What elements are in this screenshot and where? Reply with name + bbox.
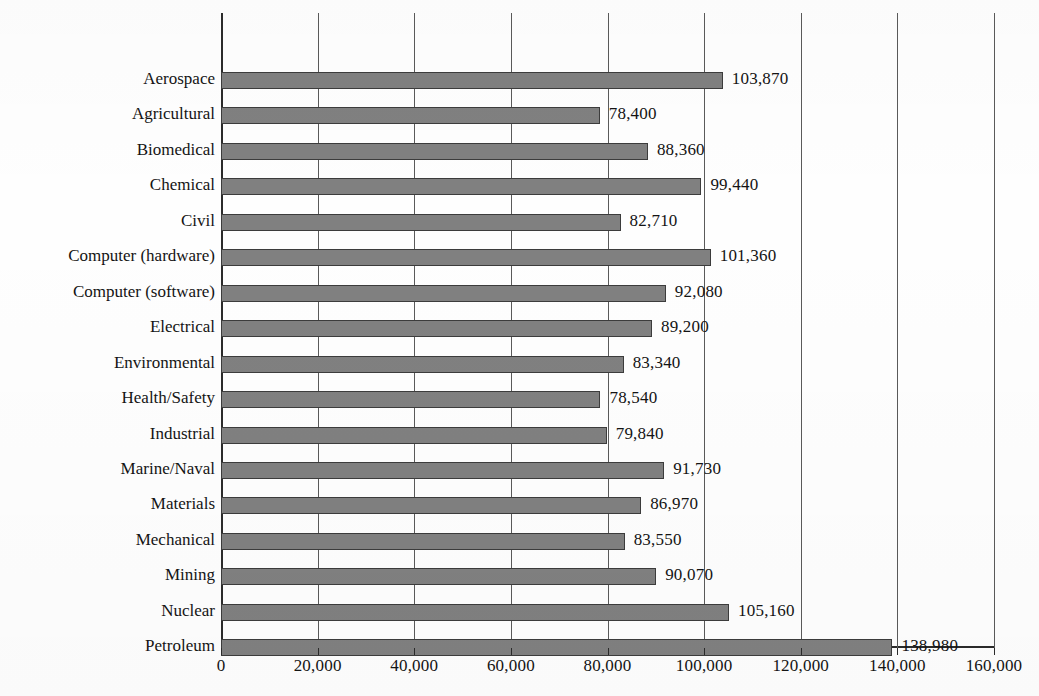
plot-area: Aerospace103,870Agricultural78,400Biomed… bbox=[221, 13, 994, 648]
bar bbox=[221, 178, 701, 195]
bar-row: Environmental83,340 bbox=[221, 350, 994, 385]
bar bbox=[221, 214, 621, 231]
bar-value-label: 91,730 bbox=[673, 459, 721, 479]
category-label: Civil bbox=[0, 211, 215, 231]
bar-row: Health/Safety78,540 bbox=[221, 385, 994, 420]
bar bbox=[221, 427, 607, 444]
bar-row: Agricultural78,400 bbox=[221, 101, 994, 136]
category-label: Chemical bbox=[0, 175, 215, 195]
category-label: Mechanical bbox=[0, 530, 215, 550]
bar bbox=[221, 462, 664, 479]
bar bbox=[221, 72, 723, 89]
tick-mark bbox=[414, 648, 415, 655]
category-label: Biomedical bbox=[0, 140, 215, 160]
bar-row: Mechanical83,550 bbox=[221, 527, 994, 562]
tick-mark bbox=[221, 648, 222, 655]
bar-row: Industrial79,840 bbox=[221, 421, 994, 456]
bar bbox=[221, 568, 656, 585]
category-label: Mining bbox=[0, 565, 215, 585]
category-label: Computer (software) bbox=[0, 282, 215, 302]
bar-value-label: 86,970 bbox=[650, 494, 698, 514]
tick-mark bbox=[608, 648, 609, 655]
category-label: Petroleum bbox=[0, 636, 215, 656]
bar-value-label: 83,340 bbox=[633, 353, 681, 373]
bar-value-label: 88,360 bbox=[657, 140, 705, 160]
bar-row: Materials86,970 bbox=[221, 491, 994, 526]
category-label: Industrial bbox=[0, 424, 215, 444]
category-label: Materials bbox=[0, 494, 215, 514]
bar-value-label: 103,870 bbox=[732, 69, 789, 89]
bar-value-label: 82,710 bbox=[630, 211, 678, 231]
category-label: Aerospace bbox=[0, 69, 215, 89]
bar bbox=[221, 285, 666, 302]
bar-row: Civil82,710 bbox=[221, 208, 994, 243]
tick-mark bbox=[318, 648, 319, 655]
tick-mark bbox=[897, 648, 898, 655]
x-tick-label: 40,000 bbox=[390, 656, 438, 676]
x-tick-label: 160,000 bbox=[966, 656, 1023, 676]
bar-value-label: 90,070 bbox=[665, 565, 713, 585]
bar-value-label: 78,400 bbox=[609, 104, 657, 124]
bar-value-label: 138,980 bbox=[901, 636, 958, 656]
bar bbox=[221, 143, 648, 160]
bar bbox=[221, 604, 729, 621]
tick-mark bbox=[511, 648, 512, 655]
bar-value-label: 78,540 bbox=[609, 388, 657, 408]
category-label: Computer (hardware) bbox=[0, 246, 215, 266]
bar bbox=[221, 249, 711, 266]
bar-row: Electrical89,200 bbox=[221, 314, 994, 349]
bar-row: Chemical99,440 bbox=[221, 172, 994, 207]
tick-mark bbox=[994, 648, 995, 655]
bar-row: Marine/Naval91,730 bbox=[221, 456, 994, 491]
bar-value-label: 99,440 bbox=[710, 175, 758, 195]
x-tick-label: 80,000 bbox=[584, 656, 632, 676]
bar-row: Biomedical88,360 bbox=[221, 137, 994, 172]
bar bbox=[221, 391, 600, 408]
bar-value-label: 105,160 bbox=[738, 601, 795, 621]
tick-mark bbox=[801, 648, 802, 655]
bar-row: Aerospace103,870 bbox=[221, 66, 994, 101]
bar bbox=[221, 639, 892, 656]
bar-row: Mining90,070 bbox=[221, 562, 994, 597]
bar-row: Computer (hardware)101,360 bbox=[221, 243, 994, 278]
x-tick-label: 100,000 bbox=[676, 656, 733, 676]
x-tick-label: 20,000 bbox=[294, 656, 342, 676]
gridline-160000 bbox=[994, 13, 995, 648]
bar-row: Computer (software)92,080 bbox=[221, 279, 994, 314]
bar-value-label: 92,080 bbox=[675, 282, 723, 302]
category-label: Nuclear bbox=[0, 601, 215, 621]
x-tick-label: 120,000 bbox=[772, 656, 829, 676]
bar-value-label: 89,200 bbox=[661, 317, 709, 337]
tick-mark bbox=[704, 648, 705, 655]
bar-value-label: 101,360 bbox=[720, 246, 777, 266]
bar-row: Nuclear105,160 bbox=[221, 598, 994, 633]
bar bbox=[221, 320, 652, 337]
category-label: Environmental bbox=[0, 353, 215, 373]
x-tick-label: 60,000 bbox=[487, 656, 535, 676]
category-label: Marine/Naval bbox=[0, 459, 215, 479]
x-tick-label: 0 bbox=[217, 656, 226, 676]
bar bbox=[221, 356, 624, 373]
bar-value-label: 83,550 bbox=[634, 530, 682, 550]
bar bbox=[221, 497, 641, 514]
bar-chart: Aerospace103,870Agricultural78,400Biomed… bbox=[0, 0, 1039, 696]
bar bbox=[221, 533, 625, 550]
category-label: Health/Safety bbox=[0, 388, 215, 408]
bar bbox=[221, 107, 600, 124]
category-label: Electrical bbox=[0, 317, 215, 337]
x-tick-label: 140,000 bbox=[869, 656, 926, 676]
category-label: Agricultural bbox=[0, 104, 215, 124]
bar-value-label: 79,840 bbox=[616, 424, 664, 444]
